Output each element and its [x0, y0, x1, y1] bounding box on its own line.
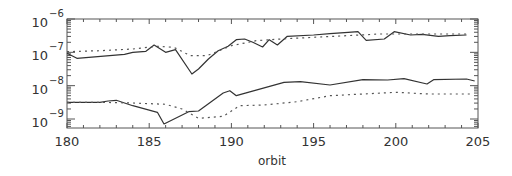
chart: 18018519019520020510−610−710−810−9 orbit: [0, 0, 512, 176]
y-tick-label-base: 10: [31, 15, 48, 30]
y-tick-label-base: 10: [31, 82, 48, 97]
plot-frame: [67, 19, 478, 128]
y-tick-label-exponent: −6: [49, 8, 64, 19]
series-layer: [67, 32, 475, 124]
series-line-upper-dotted: [67, 34, 470, 56]
series-line-upper-solid: [67, 32, 467, 74]
x-tick-label: 200: [383, 134, 408, 149]
x-tick-label: 205: [466, 134, 491, 149]
x-tick-label: 185: [137, 134, 162, 149]
y-tick-label-exponent: −8: [49, 75, 64, 86]
axes: 18018519019520020510−610−710−810−9: [31, 8, 490, 149]
y-tick-label-exponent: −7: [49, 41, 64, 52]
x-tick-label: 195: [301, 134, 326, 149]
y-tick-label-exponent: −9: [49, 108, 64, 119]
x-tick-label: 190: [219, 134, 244, 149]
x-tick-label: 180: [55, 134, 80, 149]
x-axis-title: orbit: [258, 154, 286, 168]
y-tick-label-base: 10: [31, 115, 48, 130]
y-tick-label-base: 10: [31, 48, 48, 63]
series-line-lower-dotted: [67, 92, 470, 118]
series-line-lower-solid: [67, 79, 475, 124]
